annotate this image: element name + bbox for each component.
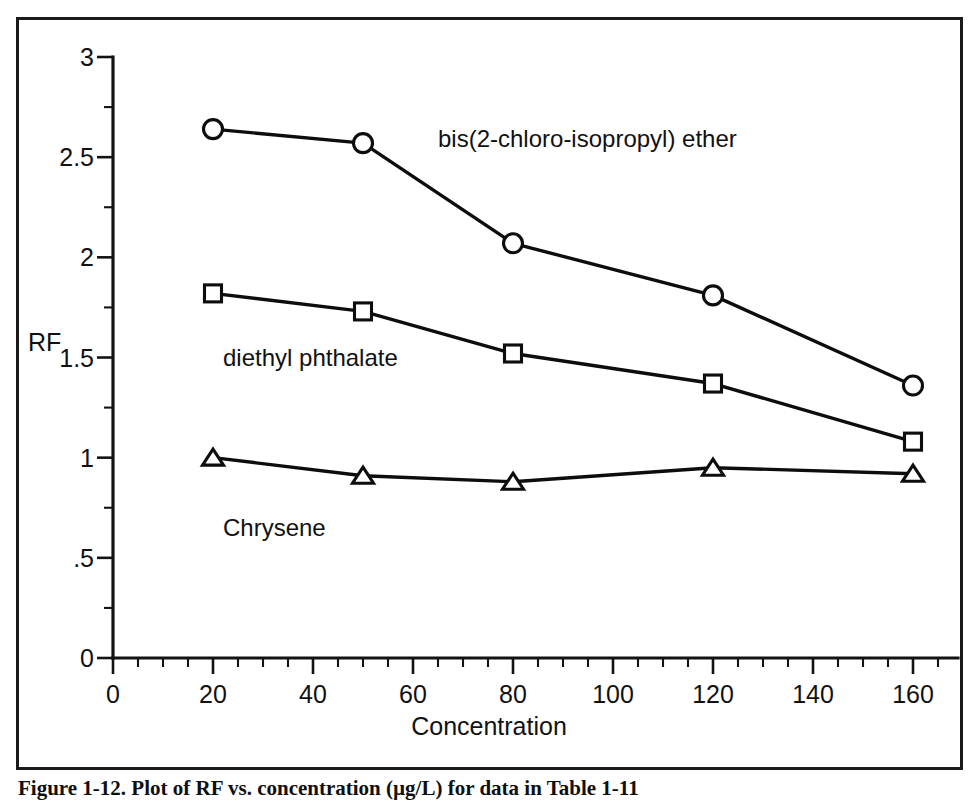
y-tick-label: 0	[40, 644, 94, 673]
x-tick-label: 120	[692, 680, 734, 709]
x-tick-label: 100	[592, 680, 634, 709]
series-annotation-2: Chrysene	[223, 514, 326, 542]
x-tick-label: 0	[106, 680, 120, 709]
x-tick-label: 140	[792, 680, 834, 709]
x-tick-label: 20	[199, 680, 227, 709]
figure-caption: Figure 1-12. Plot of RF vs. concentratio…	[18, 776, 962, 801]
series-annotation-1: diethyl phthalate	[223, 344, 398, 372]
x-axis-title: Concentration	[0, 712, 978, 741]
series-annotation-0: bis(2-chloro-isopropyl) ether	[438, 125, 737, 153]
y-tick-label: 2	[40, 243, 94, 272]
x-tick-label: 160	[892, 680, 934, 709]
x-tick-label: 40	[299, 680, 327, 709]
y-tick-label: .5	[40, 543, 94, 572]
y-tick-label: 3	[40, 43, 94, 72]
x-tick-label: 80	[499, 680, 527, 709]
x-tick-label: 60	[399, 680, 427, 709]
y-axis-title: RF	[28, 328, 61, 357]
y-tick-label: 1	[40, 443, 94, 472]
y-tick-label: 2.5	[40, 143, 94, 172]
